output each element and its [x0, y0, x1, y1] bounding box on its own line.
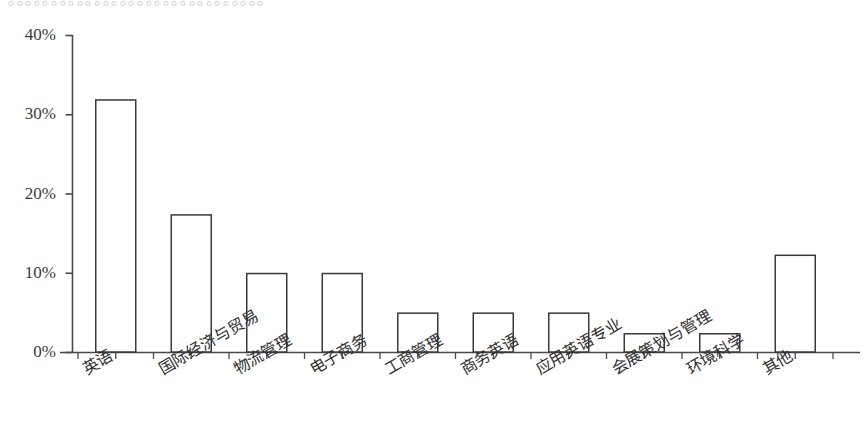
- bar-chart-figure: 0%10%20%30%40% 英语国际经济与贸易物流管理电子商务工商管理商务英语…: [0, 0, 868, 441]
- x-axis-tick-labels: 英语国际经济与贸易物流管理电子商务工商管理商务英语应用英语专业会展策划与管理环境…: [0, 0, 868, 441]
- x-axis-tick-label: 其他: [760, 348, 796, 378]
- x-axis-tick-label: 环境科学: [684, 332, 747, 378]
- x-axis-tick-label: 工商管理: [382, 332, 445, 378]
- x-axis-tick-label: 应用英语专业: [533, 316, 624, 378]
- x-axis-tick-label: 商务英语: [458, 332, 521, 378]
- x-axis-tick-label: 电子商务: [307, 332, 370, 378]
- x-axis-tick-label: 物流管理: [231, 332, 294, 378]
- x-axis-tick-label: 英语: [80, 348, 116, 378]
